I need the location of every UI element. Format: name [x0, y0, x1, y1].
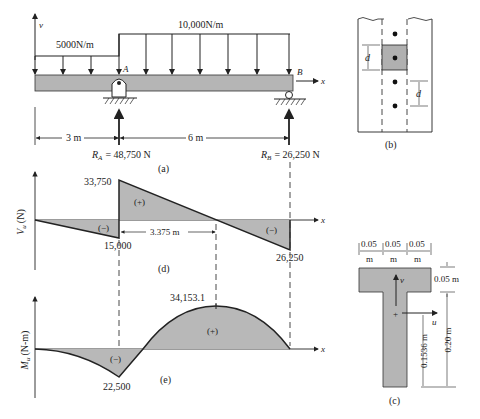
- span-right-label: 6 m: [188, 132, 204, 143]
- sign-negative-left: (−): [98, 223, 109, 233]
- caption-e: (e): [160, 374, 171, 386]
- width-2: 0.05: [385, 239, 401, 249]
- width-3: 0.05: [409, 239, 425, 249]
- moment-y-label: Mu(N-m): [19, 331, 32, 371]
- flange-height-label: 0.05 m: [434, 274, 459, 284]
- stud: [393, 104, 398, 109]
- v-axis-label: v: [400, 275, 404, 285]
- centroid-height-label: 0.1536 m: [419, 334, 429, 368]
- u-axis-label: u: [432, 317, 437, 327]
- x-axis-label: x: [320, 76, 325, 86]
- width-unit-1: m: [366, 254, 373, 264]
- load-right-label: 10,000N/m: [178, 19, 224, 30]
- span-left-label: 3 m: [66, 132, 82, 143]
- sign-negative: (−): [110, 354, 121, 364]
- width-unit-2: m: [390, 254, 397, 264]
- bending-moment-diagram: x 34,153.1 22,500 (+) (−) Mu(N-m) (e): [19, 292, 325, 398]
- centroid-marker: +: [393, 309, 398, 319]
- moment-max-label: 34,153.1: [170, 292, 205, 303]
- support-b-label: B: [297, 67, 303, 77]
- reaction-b-label: RB= 26,250 N: [260, 149, 320, 162]
- t-beam-cross-section: [359, 268, 431, 387]
- support-a-label: A: [122, 64, 129, 74]
- shear-y-label: Vu(N): [15, 209, 28, 235]
- zero-crossing-dim: 3.375 m: [150, 227, 180, 237]
- caption-a: (a): [158, 163, 169, 175]
- stud: [393, 80, 398, 85]
- beam-analysis-figure: v 5000N/m 10,000N/m A B x: [0, 0, 480, 419]
- web-height-label: 0.20 m: [443, 327, 453, 352]
- roller-support-b: [274, 92, 306, 106]
- load-left-label: 5000N/m: [56, 39, 94, 50]
- stud: [393, 32, 398, 37]
- width-1: 0.05: [361, 239, 377, 249]
- stud-spacing-diagram: d d (b): [358, 18, 432, 152]
- beam-loading-diagram: v 5000N/m 10,000N/m A B x: [35, 14, 325, 175]
- spacing-d-left: d: [365, 52, 371, 63]
- x-axis-label: x: [320, 215, 325, 225]
- width-unit-3: m: [414, 254, 421, 264]
- beam: [35, 75, 293, 91]
- caption-c: (c): [389, 395, 400, 407]
- moment-min-label: 22,500: [103, 381, 131, 392]
- reaction-a-label: RA= 48,750 N: [91, 149, 151, 162]
- v-axis-label: v: [39, 20, 43, 30]
- sign-positive: (+): [207, 326, 218, 336]
- negative-region: [35, 349, 143, 377]
- sign-positive: (+): [134, 197, 145, 207]
- x-axis-label: x: [320, 344, 325, 354]
- shear-min-left-label: 15,000: [104, 240, 132, 251]
- sign-negative-right: (−): [266, 225, 277, 235]
- caption-b: (b): [385, 139, 397, 151]
- shear-force-diagram: x 33,750 15,000 26,250 (+) (−) (−) 3.375…: [15, 172, 325, 275]
- spacing-d-right: d: [416, 88, 422, 99]
- t-section-diagram: 0.05 0.05 0.05 m m m v + u 0.05 m 0.1536…: [359, 239, 459, 407]
- stud: [393, 56, 398, 61]
- shear-max-label: 33,750: [84, 176, 112, 187]
- caption-d: (d): [158, 263, 170, 275]
